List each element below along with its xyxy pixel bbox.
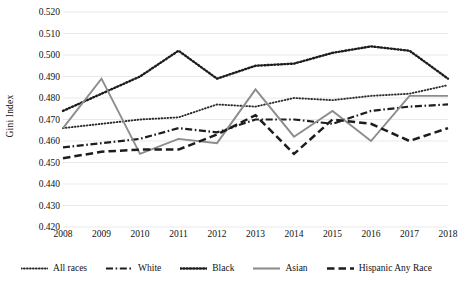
y-axis-tick-labels: 0.5200.5100.5000.4900.4800.4700.4600.450… [18,0,62,232]
legend-label: Black [212,263,234,273]
y-axis-tick-label: 0.460 [39,136,60,146]
x-axis-tick-label: 2013 [246,229,265,239]
x-axis-tick-label: 2017 [400,229,419,239]
plot-area [63,12,448,227]
legend-item-hispanic-any-race[interactable]: Hispanic Any Race [327,263,432,273]
x-axis-tick-label: 2008 [54,229,73,239]
legend-label: Asian [285,263,307,273]
x-axis-tick-label: 2009 [92,229,111,239]
y-axis-title: Gini Index [2,0,18,232]
legend-swatch-dotted-icon [180,264,207,273]
x-axis-tick-labels: 2008200920102011201220132014201520162017… [63,229,448,247]
x-axis-tick-label: 2015 [323,229,342,239]
legend-swatch-fine-dotted-icon [21,264,48,273]
y-axis-tick-label: 0.520 [39,7,60,17]
x-axis-tick-label: 2014 [285,229,304,239]
legend-item-white[interactable]: White [106,263,161,273]
y-axis-tick-label: 0.450 [39,158,60,168]
legend-item-asian[interactable]: Asian [253,263,307,273]
series-line-all-races [63,85,448,128]
legend-label: All races [53,263,87,273]
legend-label: Hispanic Any Race [359,263,432,273]
y-axis-tick-label: 0.470 [39,115,60,125]
x-axis-tick-label: 2012 [208,229,227,239]
legend-item-all-races[interactable]: All races [21,263,87,273]
y-axis-tick-label: 0.430 [39,201,60,211]
x-axis-tick-label: 2018 [439,229,458,239]
x-axis-tick-label: 2010 [131,229,150,239]
legend-swatch-dash-dot-icon [106,264,133,273]
y-axis-tick-label: 0.480 [39,93,60,103]
y-axis-tick-label: 0.440 [39,179,60,189]
legend-item-black[interactable]: Black [180,263,234,273]
x-axis-tick-label: 2016 [362,229,381,239]
y-axis-tick-label: 0.510 [39,29,60,39]
y-axis-tick-label: 0.490 [39,72,60,82]
legend-swatch-dashed-icon [327,264,354,273]
x-axis-tick-label: 2011 [169,229,188,239]
plot-svg [63,12,448,227]
chart-legend: All racesWhiteBlackAsianHispanic Any Rac… [0,258,453,278]
legend-swatch-solid-icon [253,264,280,273]
y-axis-tick-label: 0.500 [39,50,60,60]
series-line-black [63,46,448,111]
legend-label: White [138,263,161,273]
y-axis-title-text: Gini Index [5,95,15,138]
